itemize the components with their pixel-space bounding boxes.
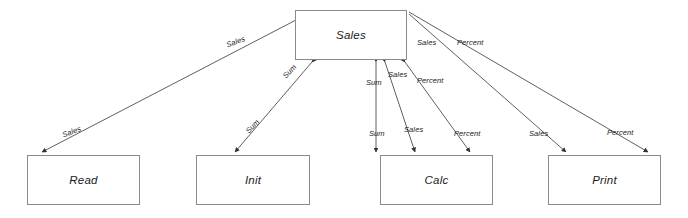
node-read[interactable]: Read: [27, 155, 140, 205]
edge-label-calc-percent-bottom: Percent: [454, 129, 481, 139]
node-calc[interactable]: Calc: [380, 155, 493, 205]
edge-label-calc-sales-bottom: Sales: [404, 125, 423, 135]
edge-label-calc-sum-bottom: Sum: [369, 129, 385, 139]
edge-sales-init: [235, 62, 312, 152]
edge-label-print-sales-top: Sales: [417, 38, 436, 48]
node-init[interactable]: Init: [196, 155, 310, 205]
edge-label-calc-sales-top: Sales: [388, 70, 407, 80]
edge-label-print-percent-top: Percent: [457, 38, 484, 48]
node-sales[interactable]: Sales: [295, 10, 407, 60]
node-label-sales: Sales: [336, 29, 366, 41]
node-label-read: Read: [69, 174, 97, 186]
edge-label-print-percent-bottom: Percent: [607, 128, 634, 138]
node-label-print: Print: [592, 174, 617, 186]
edge-label-print-sales-bottom: Sales: [529, 129, 548, 139]
node-label-calc: Calc: [425, 174, 449, 186]
node-print[interactable]: Print: [548, 155, 661, 205]
node-label-init: Init: [245, 174, 261, 186]
edge-label-calc-sum-top: Sum: [366, 78, 382, 88]
data-flow-diagram: Sales Read Init Calc Print Sales Sales S…: [0, 0, 688, 218]
edge-label-calc-percent-top: Percent: [417, 76, 444, 86]
